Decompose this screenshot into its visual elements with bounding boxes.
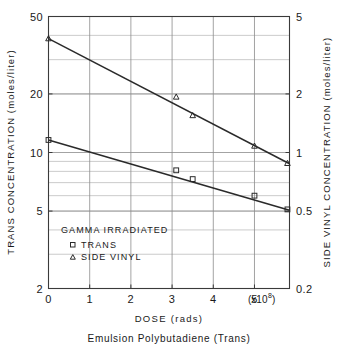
y-tick-label-right: 2	[296, 88, 303, 100]
x-multiplier-base: (x10	[248, 294, 268, 305]
y-tick-label-right: 1	[296, 147, 303, 159]
x-multiplier-close: )	[272, 294, 275, 305]
legend-label-side-vinyl: SIDE VINYL	[81, 252, 142, 262]
chart-caption: Emulsion Polybutadiene (Trans)	[88, 333, 251, 344]
y-tick-label-left: 20	[30, 88, 43, 100]
y-tick-label-right: 0.2	[296, 283, 313, 295]
y-axis-right-title: SIDE VINYL CONCENTRATION (moles/liter)	[321, 37, 332, 268]
y-tick-label-right: 0.5	[296, 205, 313, 217]
x-axis-multiplier: (x10 8 )	[248, 292, 275, 305]
y-tick-label-left: 5	[36, 205, 43, 217]
legend-title: GAMMA IRRADIATED	[61, 225, 168, 235]
x-tick-label: 2	[128, 293, 135, 305]
x-tick-label: 0	[45, 293, 52, 305]
x-tick-label: 1	[86, 293, 93, 305]
x-axis-title: DOSE (rads)	[135, 313, 204, 324]
chart-figure: 25102050 0.20.5125 012345 (x10 8 ) DOSE …	[0, 0, 344, 350]
legend-entry-side-vinyl: SIDE VINYL	[70, 252, 141, 262]
chart-svg: 25102050 0.20.5125 012345 (x10 8 ) DOSE …	[0, 0, 344, 350]
y-axis-left-title: TRANS CONCENTRATION (moles/liter)	[5, 49, 16, 255]
y-tick-label-left: 10	[30, 147, 43, 159]
x-tick-label: 3	[169, 293, 176, 305]
y-tick-label-right: 5	[296, 11, 303, 23]
y-tick-label-left: 2	[36, 283, 43, 295]
x-tick-label: 4	[210, 293, 217, 305]
legend-label-trans: TRANS	[81, 240, 117, 250]
y-tick-label-left: 50	[30, 11, 43, 23]
